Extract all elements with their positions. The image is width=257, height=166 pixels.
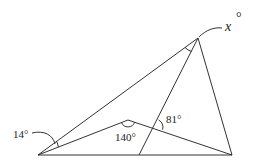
angle-arc-x [185, 48, 192, 52]
angle-label-x-degree: ° [236, 10, 242, 25]
angle-label-x: x [224, 19, 232, 34]
angle-label-81: 81° [166, 113, 181, 125]
callout-14 [32, 132, 55, 144]
angle-label-14: 14° [13, 128, 28, 140]
callout-x [199, 28, 222, 37]
angle-arc-14 [57, 141, 59, 147]
segment-db [128, 120, 232, 155]
geometry-diagram: 14° 140° 81° x ° [0, 0, 257, 166]
angle-label-140: 140° [115, 131, 136, 143]
segment-ce [139, 38, 198, 155]
angle-arc-81 [159, 120, 163, 130]
segment-cb [198, 38, 232, 155]
angle-arc-140 [122, 122, 135, 127]
